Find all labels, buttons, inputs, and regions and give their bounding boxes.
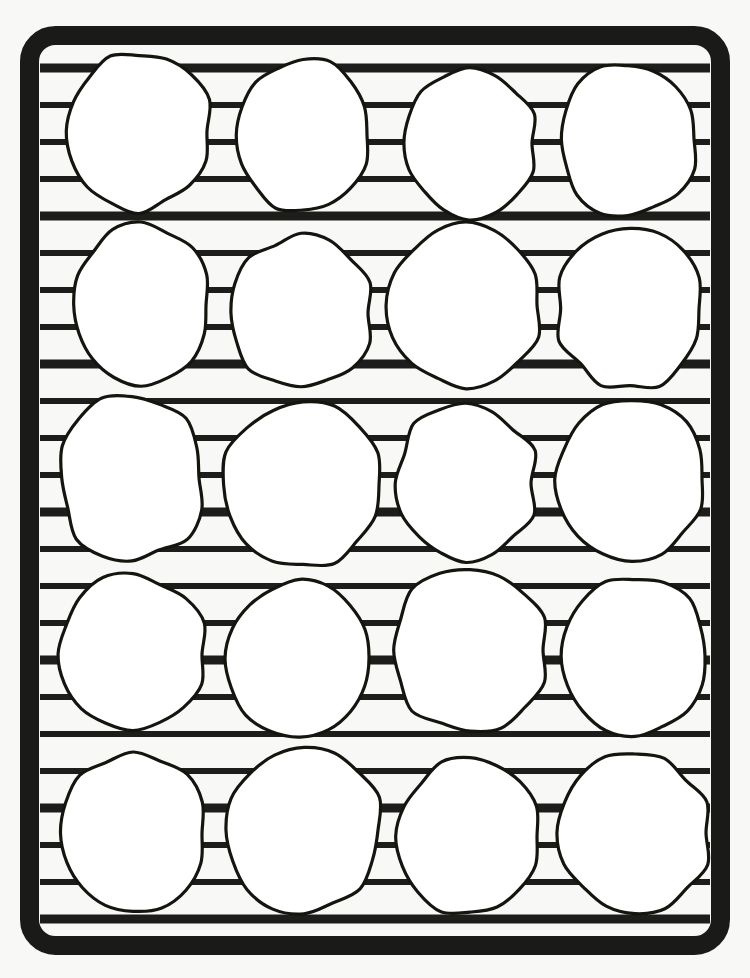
cookie [561,65,695,216]
cookie [236,59,368,211]
cookie [226,747,381,914]
cookie [555,401,703,562]
cookie [223,402,380,566]
cookie [558,228,701,388]
cookie [61,396,203,562]
cookie [394,570,546,732]
cooling-rack-illustration: Cooling rack with cookies Line drawing o… [0,0,750,978]
cookie [58,573,205,731]
cookie [60,752,203,911]
rack-drawing [0,0,750,978]
cookie [561,579,705,736]
